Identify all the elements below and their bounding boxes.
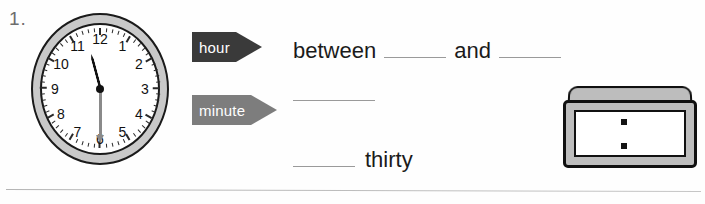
- digital-clock-screen[interactable]: [574, 110, 686, 157]
- section-divider: [6, 189, 701, 192]
- callout-arrow-minute: minute: [192, 95, 277, 125]
- hour-blank-end[interactable]: [499, 57, 561, 58]
- and-label: and: [454, 38, 491, 64]
- hour-answer-line: between and: [293, 38, 561, 64]
- arrow-right-icon: [236, 32, 262, 62]
- thirty-label: thirty: [365, 147, 413, 173]
- colon-dot-bottom: [621, 143, 627, 149]
- minute-blank[interactable]: [293, 100, 375, 101]
- between-label: between: [293, 38, 376, 64]
- colon-dot-top: [621, 119, 627, 125]
- worksheet-item: 1. 121234567891011 hour minute b: [0, 0, 705, 204]
- callout-arrow-hour: hour: [192, 32, 262, 62]
- minute-answer-line: [293, 100, 375, 101]
- thirty-answer-line: thirty: [293, 147, 413, 173]
- minute-hand: [99, 89, 102, 136]
- clock-hands: [42, 25, 158, 153]
- hour-hand-arrowhead-icon: [85, 46, 95, 56]
- callout-label-minute: minute: [192, 95, 251, 125]
- clock-center-pin: [96, 85, 104, 93]
- thirty-blank[interactable]: [293, 166, 355, 167]
- analog-clock: 121234567891011: [27, 11, 175, 171]
- clock-face: 121234567891011: [40, 23, 160, 155]
- item-number: 1.: [9, 8, 27, 30]
- hour-blank-start[interactable]: [384, 57, 446, 58]
- digital-clock-case: [563, 100, 697, 168]
- arrow-right-icon: [251, 95, 277, 125]
- digital-clock: [563, 86, 697, 168]
- minute-hand-arrowhead-icon: [96, 135, 104, 143]
- digital-clock-colon: [621, 119, 627, 149]
- callout-label-hour: hour: [192, 32, 236, 62]
